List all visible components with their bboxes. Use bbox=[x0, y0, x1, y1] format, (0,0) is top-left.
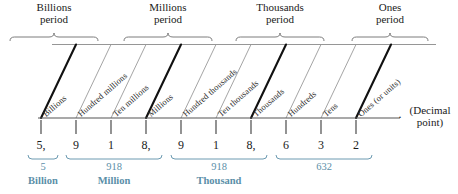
digit-tens: 3 bbox=[307, 138, 335, 153]
place-value-chart: Billionsperiod Millionsperiod Thousandsp… bbox=[0, 0, 458, 194]
underbrace-million bbox=[66, 155, 162, 159]
digit-hundred-thousands: 9 bbox=[167, 138, 195, 153]
digit-thousands: 8, bbox=[237, 138, 265, 153]
group-number-ones: 632 bbox=[294, 161, 354, 172]
group-number-million-text: 918 bbox=[106, 161, 122, 172]
group-number-billion-text: 5 bbox=[40, 161, 45, 172]
digit-thousands-text: 8, bbox=[247, 138, 256, 152]
digit-tens-text: 3 bbox=[318, 138, 324, 152]
group-number-thousand: 918 bbox=[189, 161, 249, 172]
digit-hundred-thousands-text: 9 bbox=[178, 138, 184, 152]
group-word-million: Million bbox=[79, 175, 149, 186]
digit-ten-millions-text: 1 bbox=[108, 138, 114, 152]
group-word-billion: Billion bbox=[13, 175, 73, 186]
group-word-billion-text: Billion bbox=[28, 175, 58, 186]
underbrace-billion bbox=[28, 155, 58, 159]
group-number-million: 918 bbox=[84, 161, 144, 172]
digit-millions-text: 8, bbox=[142, 138, 151, 152]
group-word-thousand-text: Thousand bbox=[197, 175, 242, 186]
group-underbraces bbox=[28, 155, 372, 159]
digit-millions: 8, bbox=[132, 138, 160, 153]
group-word-million-text: Million bbox=[98, 175, 131, 186]
period-brace-thousands bbox=[236, 33, 324, 41]
digit-ten-millions: 1 bbox=[97, 138, 125, 153]
digit-hundred-millions: 9 bbox=[62, 138, 90, 153]
digit-ticks bbox=[41, 120, 356, 134]
group-word-thousand: Thousand bbox=[182, 175, 256, 186]
digit-hundred-millions-text: 9 bbox=[73, 138, 79, 152]
digit-ones: 2 bbox=[342, 138, 370, 153]
digit-ten-thousands: 1 bbox=[202, 138, 230, 153]
digit-billions: 5, bbox=[27, 138, 55, 153]
digit-billions-text: 5, bbox=[37, 138, 46, 152]
group-number-ones-text: 632 bbox=[316, 161, 332, 172]
period-brace-billions bbox=[10, 33, 98, 41]
underbrace-thousand bbox=[171, 155, 267, 159]
decimal-point-note: (Decimal point) bbox=[402, 104, 458, 128]
digit-ones-text: 2 bbox=[353, 138, 359, 152]
digit-hundreds: 6 bbox=[272, 138, 300, 153]
decimal-point-note-text: (Decimal point) bbox=[410, 104, 451, 128]
group-number-billion: 5 bbox=[18, 161, 68, 172]
period-brace-ones bbox=[352, 33, 428, 41]
group-number-thousand-text: 918 bbox=[211, 161, 227, 172]
underbrace-ones bbox=[276, 155, 372, 159]
digit-ten-thousands-text: 1 bbox=[213, 138, 219, 152]
period-brace-millions bbox=[124, 33, 212, 41]
digit-hundreds-text: 6 bbox=[283, 138, 289, 152]
